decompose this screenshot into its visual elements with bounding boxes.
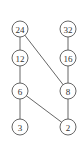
hasse-diagram: 24 32 12 16 6 8 3 2 — [0, 0, 84, 147]
node-16: 16 — [60, 50, 76, 66]
node-label: 16 — [64, 54, 74, 64]
node-label: 6 — [18, 87, 23, 97]
edge-6-2 — [20, 91, 68, 127]
node-2: 2 — [60, 119, 76, 135]
node-24: 24 — [12, 21, 28, 37]
node-32: 32 — [60, 21, 76, 37]
node-12: 12 — [12, 50, 28, 66]
edges — [20, 29, 68, 127]
node-label: 2 — [66, 123, 71, 133]
node-label: 12 — [16, 54, 25, 64]
node-8: 8 — [60, 83, 76, 99]
node-label: 3 — [18, 123, 23, 133]
node-3: 3 — [12, 119, 28, 135]
node-6: 6 — [12, 83, 28, 99]
node-label: 8 — [66, 87, 71, 97]
node-label: 32 — [64, 25, 73, 35]
node-label: 24 — [16, 25, 26, 35]
